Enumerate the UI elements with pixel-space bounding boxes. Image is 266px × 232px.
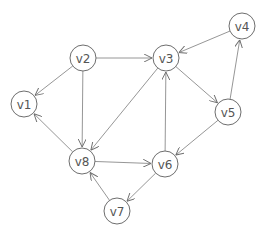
edge-line	[82, 71, 83, 147]
node-v7: v7	[104, 198, 130, 224]
node-v6: v6	[152, 151, 178, 177]
node-label: v5	[221, 106, 236, 120]
node-label: v8	[75, 155, 90, 169]
edge-line	[35, 66, 73, 95]
graph-canvas: v1v2v3v4v5v6v7v8	[0, 0, 266, 232]
edge-line	[34, 114, 73, 152]
edge-v6-to-v7	[127, 173, 156, 201]
node-v5: v5	[215, 99, 241, 125]
edge-v7-to-v8	[90, 172, 110, 200]
edge-line	[230, 40, 240, 99]
node-label: v3	[159, 52, 174, 66]
edge-v3-to-v5	[176, 67, 218, 103]
node-label: v1	[17, 98, 32, 112]
node-label: v6	[158, 158, 173, 172]
edge-v4-to-v3	[179, 31, 230, 53]
edge-v8-to-v6	[95, 161, 151, 163]
nodes-layer: v1v2v3v4v5v6v7v8	[11, 13, 255, 224]
edge-v8-to-v1	[34, 114, 73, 152]
edge-line	[90, 172, 110, 200]
edge-v2-to-v8	[82, 71, 83, 147]
edge-v6-to-v3	[165, 72, 166, 151]
node-label: v2	[76, 52, 91, 66]
edge-v5-to-v6	[176, 120, 218, 155]
edge-line	[176, 120, 218, 155]
node-v3: v3	[153, 45, 179, 71]
node-label: v7	[110, 205, 125, 219]
edge-line	[165, 72, 166, 151]
node-v4: v4	[229, 13, 255, 39]
node-v1: v1	[11, 91, 37, 117]
edge-line	[127, 173, 156, 201]
edge-v2-to-v1	[35, 66, 73, 95]
node-label: v4	[235, 20, 250, 34]
edge-v5-to-v4	[230, 40, 240, 99]
edges-layer	[34, 31, 240, 201]
edge-line	[95, 161, 151, 163]
edge-line	[179, 31, 230, 53]
edge-line	[91, 68, 158, 150]
node-v8: v8	[69, 148, 95, 174]
edge-v3-to-v8	[91, 68, 158, 150]
node-v2: v2	[70, 45, 96, 71]
edge-line	[176, 67, 218, 103]
